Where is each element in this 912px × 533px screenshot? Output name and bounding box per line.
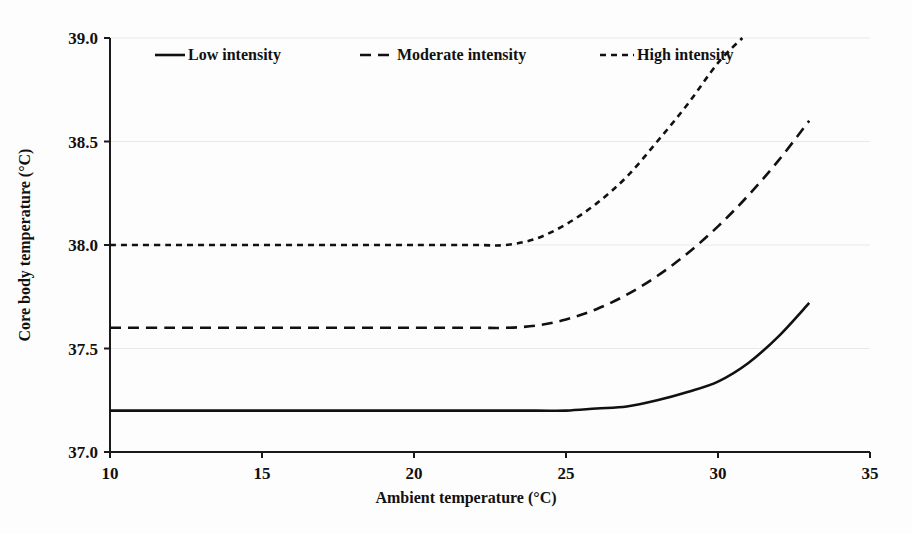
chart-figure: 37.037.538.038.539.0 101520253035 Ambien… xyxy=(0,0,912,533)
data-series-group xyxy=(110,38,809,411)
y-tick-labels: 37.037.538.038.539.0 xyxy=(68,29,98,462)
x-tick-label: 10 xyxy=(102,464,119,483)
series-line-low-intensity xyxy=(110,303,809,411)
line-chart: 37.037.538.038.539.0 101520253035 Ambien… xyxy=(0,0,912,533)
x-tick-label: 20 xyxy=(406,464,423,483)
chart-legend: Low intensityModerate intensityHigh inte… xyxy=(155,46,733,64)
legend-label-0: Low intensity xyxy=(188,46,281,64)
y-tick-label: 37.0 xyxy=(68,443,98,462)
y-axis-title: Core body temperature (°C) xyxy=(16,149,34,342)
y-tick-label: 39.0 xyxy=(68,29,98,48)
series-line-moderate-intensity xyxy=(110,121,809,328)
x-tick-labels: 101520253035 xyxy=(102,464,879,483)
x-tick-label: 15 xyxy=(254,464,271,483)
legend-label-1: Moderate intensity xyxy=(397,46,526,64)
y-tick-label: 38.0 xyxy=(68,236,98,255)
x-tick-label: 35 xyxy=(862,464,879,483)
x-tick-label: 30 xyxy=(710,464,727,483)
x-axis-title: Ambient temperature (°C) xyxy=(375,489,556,507)
gridlines-group xyxy=(110,38,870,349)
y-tick-label: 38.5 xyxy=(68,133,98,152)
legend-label-2: High intensity xyxy=(637,46,733,64)
x-tick-label: 25 xyxy=(558,464,575,483)
y-tick-label: 37.5 xyxy=(68,340,98,359)
